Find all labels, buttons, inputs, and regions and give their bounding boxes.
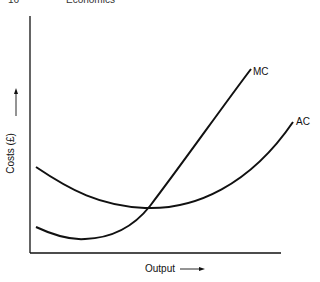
x-axis-label: Output	[145, 263, 175, 274]
mc-label: MC	[253, 66, 269, 77]
y-axis-label: Costs (£)	[5, 133, 16, 174]
ac-curve	[36, 122, 293, 208]
y-axis-arrowhead-icon	[14, 88, 18, 94]
x-axis-arrowhead-icon	[199, 267, 205, 271]
mc-curve	[36, 69, 251, 239]
ac-label: AC	[296, 116, 310, 127]
cost-chart	[0, 0, 320, 282]
